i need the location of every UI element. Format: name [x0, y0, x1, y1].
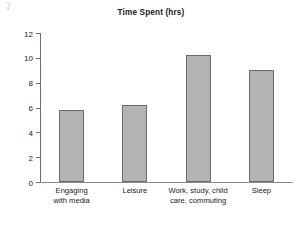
category-label: Leisure [103, 186, 166, 196]
y-tick: 8 [36, 83, 40, 84]
category-label: Work, study, child care, commuting [167, 186, 230, 205]
x-axis-line [40, 182, 293, 183]
y-tick: 2 [36, 157, 40, 158]
chart-figure: ʔ Time Spent (hrs) 024681012 Engaging wi… [0, 0, 302, 225]
y-tick: 4 [36, 132, 40, 133]
bar [59, 110, 84, 182]
y-tick-label: 12 [24, 29, 33, 38]
y-tick: 0 [36, 182, 40, 183]
bar [122, 105, 147, 182]
y-tick-label: 4 [29, 128, 33, 137]
plot-area: 024681012 Engaging with mediaLeisureWork… [40, 33, 293, 182]
y-tick: 12 [36, 33, 40, 34]
y-tick: 6 [36, 108, 40, 109]
bar [249, 70, 274, 182]
y-tick-label: 2 [29, 153, 33, 162]
y-tick: 10 [36, 58, 40, 59]
category-label: Sleep [230, 186, 293, 196]
y-tick-label: 0 [29, 178, 33, 187]
chart-title: Time Spent (hrs) [0, 8, 302, 17]
y-axis-line [40, 33, 41, 182]
y-tick-label: 8 [29, 79, 33, 88]
category-label: Engaging with media [40, 186, 103, 205]
y-tick-label: 6 [29, 104, 33, 113]
bar [186, 55, 211, 182]
y-tick-label: 10 [24, 54, 33, 63]
